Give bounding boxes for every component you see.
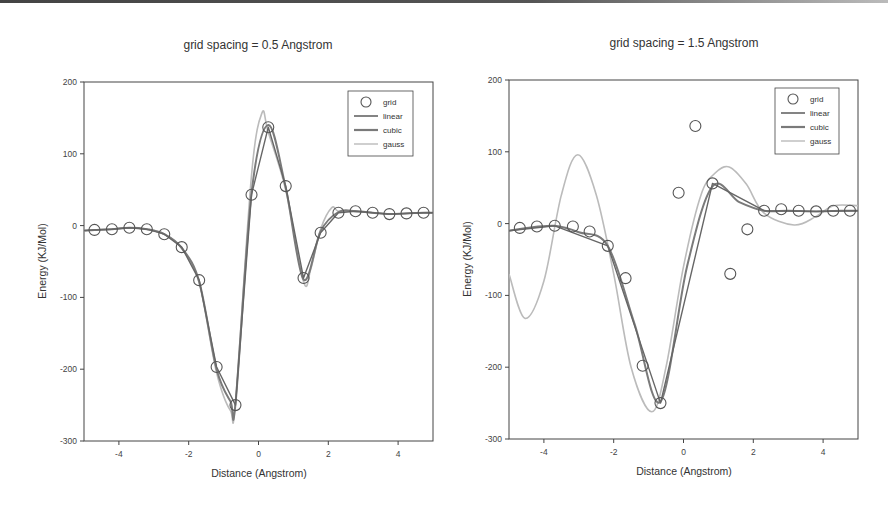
legend-label: grid — [810, 95, 823, 104]
plot-area: 2001000-100-200-300-4-2024gridlinearcubi… — [485, 75, 858, 457]
legend-label: linear — [383, 112, 403, 121]
x-tick-label: -4 — [115, 449, 123, 459]
y-tick-label: -300 — [60, 436, 77, 446]
legend-label: grid — [383, 98, 396, 107]
x-tick-label: -4 — [540, 447, 548, 457]
legend-label: gauss — [810, 137, 831, 146]
legend-label: gauss — [383, 140, 404, 149]
grid-point-marker — [584, 226, 595, 237]
chart-title: grid spacing = 0.5 Angstrom — [183, 38, 332, 52]
grid-point-marker — [673, 187, 684, 198]
grid-point-marker — [637, 360, 648, 371]
x-tick-label: 4 — [396, 449, 401, 459]
grid-point-marker — [620, 273, 631, 284]
y-axis-label: Energy (KJ/Mol) — [36, 223, 48, 298]
x-tick-label: -2 — [185, 449, 193, 459]
series-line-cubic — [509, 183, 858, 402]
grid-point-marker — [725, 268, 736, 279]
y-tick-label: 200 — [488, 75, 502, 85]
x-tick-label: 0 — [681, 447, 686, 457]
y-tick-label: -300 — [485, 434, 502, 444]
x-tick-label: -2 — [610, 447, 618, 457]
y-tick-label: -200 — [485, 362, 502, 372]
chart-title: grid spacing = 1.5 Angstrom — [609, 36, 758, 50]
y-tick-label: -200 — [60, 364, 77, 374]
x-tick-label: 2 — [751, 447, 756, 457]
x-tick-label: 0 — [256, 449, 261, 459]
series-line-linear — [84, 127, 433, 405]
y-tick-label: 100 — [63, 149, 77, 159]
legend: gridlinearcubicgauss — [348, 91, 413, 156]
y-tick-label: 0 — [497, 219, 502, 229]
grid-point-marker — [776, 204, 787, 215]
y-tick-label: 100 — [488, 147, 502, 157]
x-axis-label: Distance (Angstrom) — [636, 465, 732, 477]
chart-grid-0-5: grid spacing = 0.5 Angstrom Distance (An… — [36, 38, 433, 479]
y-tick-label: 200 — [63, 77, 77, 87]
x-tick-label: 2 — [326, 449, 331, 459]
series-line-gauss — [84, 111, 433, 423]
grid-point-marker — [690, 120, 701, 131]
y-tick-label: -100 — [485, 290, 502, 300]
grid-point-marker — [742, 224, 753, 235]
y-axis-label: Energy (KJ/Mol) — [461, 221, 473, 296]
plot-area: 2001000-100-200-300-4-2024gridlinearcubi… — [60, 77, 433, 459]
x-axis-label: Distance (Angstrom) — [211, 467, 307, 479]
chart-grid-1-5: grid spacing = 1.5 Angstrom Distance (An… — [461, 36, 858, 477]
series-line-linear — [509, 183, 858, 403]
x-tick-label: 4 — [821, 447, 826, 457]
legend: gridlinearcubicgauss — [775, 88, 839, 154]
legend-label: linear — [810, 109, 830, 118]
figure-canvas: grid spacing = 0.5 Angstrom Distance (An… — [0, 0, 888, 512]
legend-label: cubic — [810, 123, 829, 132]
legend-label: cubic — [383, 126, 402, 135]
y-tick-label: -100 — [60, 292, 77, 302]
y-tick-label: 0 — [72, 221, 77, 231]
